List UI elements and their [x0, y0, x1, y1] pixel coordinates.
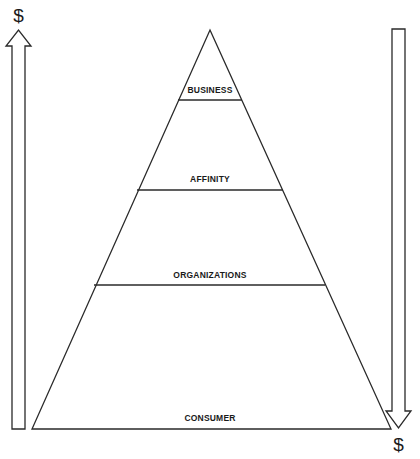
up-arrow-icon [6, 30, 31, 429]
right-dollar-label: $ [393, 434, 404, 455]
down-arrow-icon [386, 29, 411, 428]
tier-label-affinity: AFFINITY [190, 174, 230, 184]
tier-label-consumer: CONSUMER [184, 413, 235, 423]
left-dollar-label: $ [13, 5, 24, 26]
tier-label-organizations: ORGANIZATIONS [173, 270, 246, 280]
pyramid-diagram: $ $ BUSINESS AFFINITY ORGANIZATIONS CONS… [0, 0, 420, 459]
tier-label-business: BUSINESS [187, 85, 232, 95]
